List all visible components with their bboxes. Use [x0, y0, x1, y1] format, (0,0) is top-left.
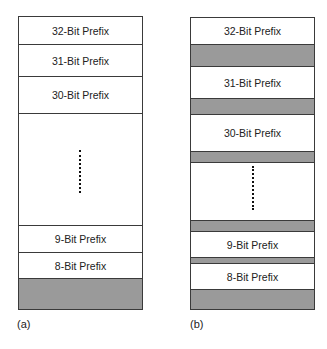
row-label: 9-Bit Prefix	[227, 239, 278, 251]
panel-a-caption: (a)	[17, 318, 30, 330]
row-gray-gap	[191, 151, 314, 162]
row-gray-gap	[191, 98, 314, 114]
row-9-bit-prefix: 9-Bit Prefix	[19, 225, 142, 252]
row-gray-fill	[19, 278, 142, 309]
row-label: 30-Bit Prefix	[52, 89, 109, 101]
row-31-bit-prefix: 31-Bit Prefix	[19, 44, 142, 76]
row-label: 32-Bit Prefix	[224, 25, 281, 37]
row-30-bit-prefix: 30-Bit Prefix	[191, 114, 314, 151]
row-32-bit-prefix: 32-Bit Prefix	[191, 18, 314, 44]
panel-a-table: 32-Bit Prefix 31-Bit Prefix 30-Bit Prefi…	[18, 16, 143, 310]
row-gray-gap	[191, 220, 314, 231]
row-8-bit-prefix: 8-Bit Prefix	[19, 252, 142, 278]
panel-b-table: 32-Bit Prefix 31-Bit Prefix 30-Bit Prefi…	[190, 17, 315, 310]
row-label: 30-Bit Prefix	[224, 127, 281, 139]
row-label: 31-Bit Prefix	[224, 77, 281, 89]
row-label: 8-Bit Prefix	[227, 271, 278, 283]
row-31-bit-prefix: 31-Bit Prefix	[191, 66, 314, 98]
row-label: 9-Bit Prefix	[55, 233, 106, 245]
row-label: 32-Bit Prefix	[52, 25, 109, 37]
vertical-ellipsis-icon	[252, 166, 256, 210]
panel-b-caption: (b)	[190, 318, 203, 330]
row-8-bit-prefix: 8-Bit Prefix	[191, 263, 314, 289]
row-gray-fill	[191, 289, 314, 309]
vertical-ellipsis-icon	[79, 150, 83, 193]
row-label: 8-Bit Prefix	[55, 260, 106, 272]
row-gray-gap	[191, 44, 314, 66]
row-32-bit-prefix: 32-Bit Prefix	[19, 17, 142, 44]
row-30-bit-prefix: 30-Bit Prefix	[19, 76, 142, 113]
row-label: 31-Bit Prefix	[52, 55, 109, 67]
row-9-bit-prefix: 9-Bit Prefix	[191, 231, 314, 257]
